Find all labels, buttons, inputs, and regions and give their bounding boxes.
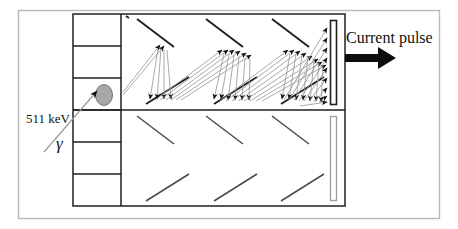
current-pulse-arrow <box>345 47 396 69</box>
gamma-symbol-label: γ <box>56 135 63 152</box>
lower-dynodes <box>137 116 324 201</box>
anode-upper <box>331 21 337 105</box>
pmt-diagram-figure: Current pulse 511 keV γ <box>0 0 458 229</box>
cascade-stage-2 <box>150 49 171 99</box>
cascade-stage-5 <box>220 50 326 101</box>
gamma-energy-label: 511 keV <box>26 112 70 125</box>
anode-lower <box>331 117 337 201</box>
scintillation-event-icon <box>96 85 113 106</box>
current-pulse-label: Current pulse <box>346 30 433 46</box>
